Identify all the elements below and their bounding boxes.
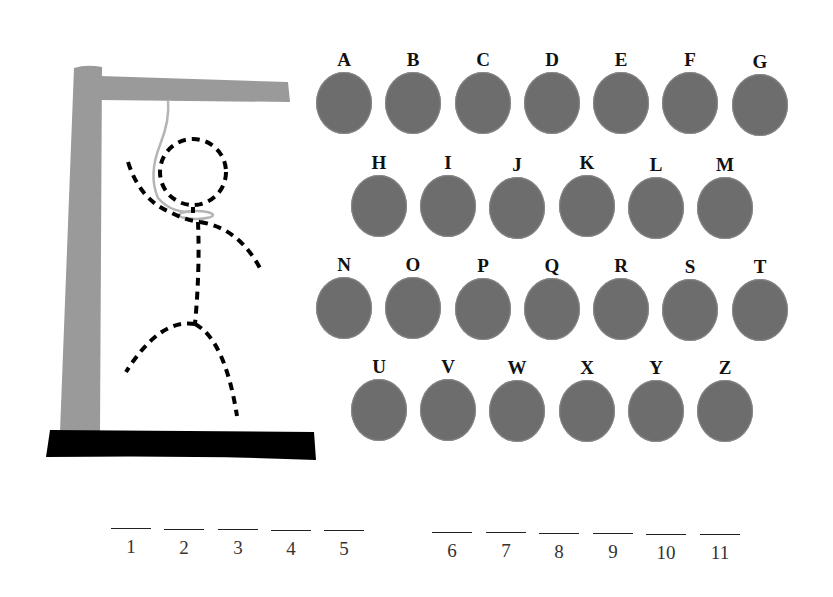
letter-button-disc[interactable] [316, 72, 372, 134]
letter-button-disc[interactable] [559, 380, 615, 442]
letter-key-q[interactable]: Q [523, 256, 581, 336]
letter-button-disc[interactable] [489, 177, 545, 239]
letter-button-disc[interactable] [455, 72, 511, 134]
letter-label: F [661, 50, 719, 70]
blank-line [271, 530, 311, 531]
letter-key-e[interactable]: E [592, 50, 650, 130]
letter-button-disc[interactable] [420, 175, 476, 237]
blank-number: 7 [486, 540, 526, 562]
letter-key-o[interactable]: O [384, 255, 442, 335]
letter-key-y[interactable]: Y [627, 358, 685, 438]
letter-button-disc[interactable] [628, 177, 684, 239]
letter-key-f[interactable]: F [661, 50, 719, 130]
letter-key-z[interactable]: Z [696, 358, 754, 438]
letter-button-disc[interactable] [385, 72, 441, 134]
letter-key-x[interactable]: X [558, 358, 616, 438]
letter-button-disc[interactable] [593, 72, 649, 134]
letter-label: D [523, 50, 581, 70]
letter-button-disc[interactable] [455, 278, 511, 340]
letter-key-u[interactable]: U [350, 357, 408, 437]
blank-number: 6 [432, 540, 472, 562]
letter-label: E [592, 50, 650, 70]
letter-button-disc[interactable] [697, 380, 753, 442]
letter-label: U [350, 357, 408, 377]
letter-label: G [731, 52, 789, 72]
letter-key-t[interactable]: T [731, 257, 789, 337]
letter-button-disc[interactable] [385, 277, 441, 339]
letter-label: S [661, 257, 719, 277]
letter-label: I [419, 153, 477, 173]
letter-label: P [454, 256, 512, 276]
letter-key-i[interactable]: I [419, 153, 477, 233]
letter-label: Q [523, 256, 581, 276]
letter-key-r[interactable]: R [592, 256, 650, 336]
gallows-post [60, 66, 102, 432]
word-blank-5: 5 [324, 530, 364, 570]
letter-label: O [384, 255, 442, 275]
letter-button-disc[interactable] [351, 175, 407, 237]
letter-key-a[interactable]: A [315, 50, 373, 130]
letter-key-n[interactable]: N [315, 255, 373, 335]
gallows-beam [100, 76, 290, 102]
letter-key-m[interactable]: M [696, 155, 754, 235]
letter-key-d[interactable]: D [523, 50, 581, 130]
letter-key-k[interactable]: K [558, 153, 616, 233]
letter-button-disc[interactable] [351, 379, 407, 441]
blank-line [646, 534, 686, 535]
letter-button-disc[interactable] [559, 175, 615, 237]
blank-line [324, 530, 364, 531]
letter-key-w[interactable]: W [488, 358, 546, 438]
letter-button-disc[interactable] [524, 72, 580, 134]
letter-label: M [696, 155, 754, 175]
letter-button-disc[interactable] [662, 279, 718, 341]
blank-number: 9 [593, 541, 633, 563]
letter-key-b[interactable]: B [384, 50, 442, 130]
blank-line [700, 534, 740, 535]
letter-label: T [731, 257, 789, 277]
letter-button-disc[interactable] [732, 74, 788, 136]
letter-key-v[interactable]: V [419, 357, 477, 437]
blank-line [164, 529, 204, 530]
blank-number: 8 [539, 541, 579, 563]
letter-label: Z [696, 358, 754, 378]
letter-label: H [350, 153, 408, 173]
word-blank-10: 10 [646, 534, 686, 574]
letter-label: A [315, 50, 373, 70]
letter-button-disc[interactable] [316, 277, 372, 339]
blank-number: 1 [111, 536, 151, 558]
letter-key-p[interactable]: P [454, 256, 512, 336]
word-blank-4: 4 [271, 530, 311, 570]
figure-body [195, 222, 199, 324]
letter-label: C [454, 50, 512, 70]
letter-key-g[interactable]: G [731, 52, 789, 132]
letter-button-disc[interactable] [732, 279, 788, 341]
blank-number: 5 [324, 538, 364, 560]
letter-key-s[interactable]: S [661, 257, 719, 337]
blank-number: 11 [700, 542, 740, 564]
letter-label: J [488, 155, 546, 175]
figure-right-leg [195, 324, 237, 416]
letter-key-j[interactable]: J [488, 155, 546, 235]
gallows-base [46, 430, 316, 460]
letter-button-disc[interactable] [489, 380, 545, 442]
letter-button-disc[interactable] [420, 379, 476, 441]
stick-figure [126, 139, 262, 416]
word-blank-11: 11 [700, 534, 740, 574]
letter-button-disc[interactable] [524, 278, 580, 340]
word-blank-2: 2 [164, 529, 204, 569]
word-blank-3: 3 [218, 529, 258, 569]
letter-button-disc[interactable] [662, 72, 718, 134]
letter-key-l[interactable]: L [627, 155, 685, 235]
figure-head [160, 139, 226, 205]
letter-label: L [627, 155, 685, 175]
blank-line [432, 532, 472, 533]
letter-label: R [592, 256, 650, 276]
word-blank-7: 7 [486, 532, 526, 572]
word-blank-6: 6 [432, 532, 472, 572]
letter-key-c[interactable]: C [454, 50, 512, 130]
letter-button-disc[interactable] [628, 380, 684, 442]
letter-key-h[interactable]: H [350, 153, 408, 233]
letter-button-disc[interactable] [697, 177, 753, 239]
letter-button-disc[interactable] [593, 278, 649, 340]
letter-label: X [558, 358, 616, 378]
